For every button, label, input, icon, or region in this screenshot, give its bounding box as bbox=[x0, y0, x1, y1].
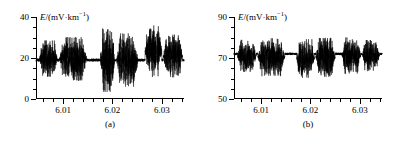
y-tick-label-b-2: 90 bbox=[218, 13, 227, 22]
x-tick-minor-b bbox=[330, 99, 331, 102]
panel-b: E/(mV·km−1) 5070906.016.026.03 (b) bbox=[196, 0, 393, 143]
x-tick-major-b-1 bbox=[310, 99, 311, 104]
x-tick-label-a-0: 6.01 bbox=[55, 106, 71, 115]
y-tick-minor-b bbox=[231, 79, 234, 80]
x-tick-minor-b bbox=[370, 99, 371, 102]
x-tick-minor-b bbox=[241, 99, 242, 102]
panel-caption-b: (b) bbox=[234, 119, 382, 129]
x-tick-minor-b bbox=[291, 99, 292, 102]
x-tick-minor-b bbox=[350, 99, 351, 102]
plot-area-a: 020406.016.026.03 bbox=[36, 17, 184, 99]
y-tick-minor-b bbox=[231, 68, 234, 69]
x-tick-minor-a bbox=[103, 99, 104, 102]
y-tick-minor-a bbox=[33, 48, 36, 49]
x-tick-minor-a bbox=[93, 99, 94, 102]
x-tick-minor-b bbox=[251, 99, 252, 102]
x-tick-label-a-2: 6.03 bbox=[154, 106, 170, 115]
x-tick-major-a-1 bbox=[112, 99, 113, 104]
x-tick-minor-a bbox=[182, 99, 183, 102]
trace-polyline-a bbox=[36, 26, 184, 92]
y-tick-minor-a bbox=[33, 89, 36, 90]
y-tick-label-a-2: 40 bbox=[20, 13, 29, 22]
x-tick-label-b-2: 6.03 bbox=[352, 106, 368, 115]
x-tick-minor-a bbox=[53, 99, 54, 102]
x-tick-minor-a bbox=[142, 99, 143, 102]
trace-polyline-b bbox=[234, 37, 382, 77]
x-tick-label-a-1: 6.02 bbox=[105, 106, 121, 115]
y-tick-minor-b bbox=[231, 27, 234, 28]
y-tick-minor-a bbox=[33, 79, 36, 80]
panel-caption-a: (a) bbox=[36, 119, 184, 129]
y-tick-major-b-2 bbox=[229, 17, 234, 18]
x-tick-minor-a bbox=[152, 99, 153, 102]
y-tick-major-a-0 bbox=[31, 99, 36, 100]
x-tick-minor-a bbox=[83, 99, 84, 102]
figure-container: E/(mV·km−1) 020406.016.026.03 (a) E/(mV·… bbox=[0, 0, 393, 143]
y-tick-minor-b bbox=[231, 48, 234, 49]
x-tick-minor-b bbox=[340, 99, 341, 102]
x-tick-minor-b bbox=[281, 99, 282, 102]
x-tick-minor-b bbox=[380, 99, 381, 102]
x-tick-minor-a bbox=[172, 99, 173, 102]
y-tick-major-a-1 bbox=[31, 58, 36, 59]
y-tick-major-b-0 bbox=[229, 99, 234, 100]
x-tick-major-b-0 bbox=[261, 99, 262, 104]
x-tick-major-a-2 bbox=[162, 99, 163, 104]
panel-a: E/(mV·km−1) 020406.016.026.03 (a) bbox=[0, 0, 196, 143]
y-tick-minor-a bbox=[33, 68, 36, 69]
y-tick-label-b-0: 50 bbox=[218, 95, 227, 104]
y-tick-minor-a bbox=[33, 38, 36, 39]
x-tick-minor-a bbox=[122, 99, 123, 102]
y-tick-major-a-2 bbox=[31, 17, 36, 18]
x-tick-minor-b bbox=[320, 99, 321, 102]
y-tick-major-b-1 bbox=[229, 58, 234, 59]
x-tick-label-b-1: 6.02 bbox=[303, 106, 319, 115]
trace-b bbox=[234, 17, 382, 99]
x-tick-minor-b bbox=[271, 99, 272, 102]
y-tick-label-b-1: 70 bbox=[218, 54, 227, 63]
y-tick-minor-b bbox=[231, 38, 234, 39]
y-tick-minor-b bbox=[231, 89, 234, 90]
x-tick-minor-a bbox=[73, 99, 74, 102]
x-tick-major-b-2 bbox=[360, 99, 361, 104]
x-tick-label-b-0: 6.01 bbox=[253, 106, 269, 115]
y-tick-label-a-1: 20 bbox=[20, 54, 29, 63]
x-tick-minor-a bbox=[43, 99, 44, 102]
trace-a bbox=[36, 17, 184, 99]
x-tick-major-a-0 bbox=[63, 99, 64, 104]
x-tick-minor-a bbox=[132, 99, 133, 102]
y-tick-minor-a bbox=[33, 27, 36, 28]
x-tick-minor-b bbox=[301, 99, 302, 102]
plot-area-b: 5070906.016.026.03 bbox=[234, 17, 382, 99]
y-tick-label-a-0: 0 bbox=[25, 95, 30, 104]
